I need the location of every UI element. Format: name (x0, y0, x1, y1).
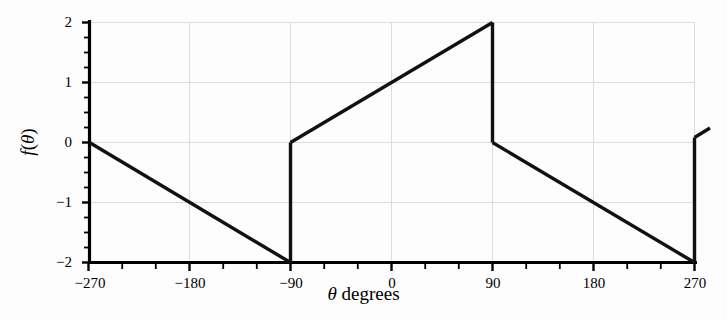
y-tick-label-0: 0 (50, 134, 72, 151)
y-axis-label-close: ) (17, 128, 38, 134)
x-axis-label: θ degrees (0, 283, 727, 305)
y-axis-label: f(θ) (17, 128, 39, 155)
x-axis-label-text: degrees (337, 283, 400, 304)
plot-canvas (0, 0, 727, 320)
y-tick-label-1: 1 (50, 74, 72, 91)
y-axis-label-symbol: θ (17, 135, 38, 144)
y-tick-label-minus-2: −2 (44, 254, 72, 271)
y-axis-label-open: ( (17, 144, 38, 150)
segment-4-overhang (695, 128, 711, 138)
y-tick-label-minus-1: −1 (44, 194, 72, 211)
y-axis-label-fn: f (17, 150, 38, 155)
chart-figure: 2 1 0 −1 −2 −270 −180 −90 0 90 180 270 θ… (0, 0, 727, 320)
y-tick-label-2: 2 (50, 14, 72, 31)
x-axis-label-symbol: θ (327, 283, 336, 304)
